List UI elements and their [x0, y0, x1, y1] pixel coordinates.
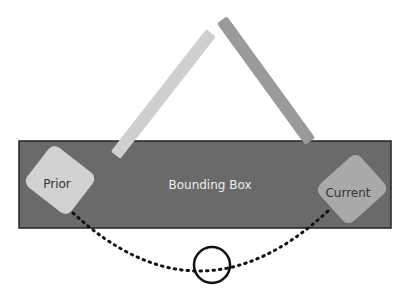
diagram-svg: Bounding Box Prior Current	[0, 0, 406, 300]
prior-arm-overlay	[111, 29, 216, 159]
circle-marker	[194, 247, 230, 283]
bounding-box-label: Bounding Box	[168, 178, 251, 192]
diagram-canvas: Bounding Box Prior Current	[0, 0, 406, 300]
current-arm-overlay	[217, 16, 315, 144]
prior-label: Prior	[43, 177, 71, 191]
current-label: Current	[325, 186, 370, 200]
